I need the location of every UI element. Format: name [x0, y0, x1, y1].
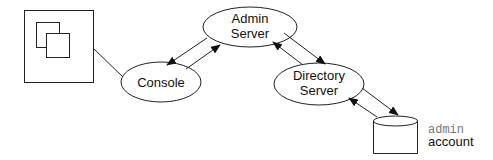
architecture-diagram: Console Admin Server Directory Server ad…	[0, 0, 493, 160]
database-cylinder-icon	[374, 116, 418, 154]
admin-server-label-line1: Admin	[232, 11, 269, 26]
directory-server-label-line2: Server	[300, 83, 339, 98]
admin-to-directory-arrow	[284, 33, 325, 64]
admin-server-node: Admin Server	[203, 7, 297, 47]
database-label: account	[428, 134, 474, 149]
screen-window-icon	[25, 11, 94, 83]
database-to-directory-arrow	[349, 98, 377, 117]
console-node: Console	[121, 62, 201, 102]
admin-to-console-arrow	[167, 38, 207, 65]
admin-server-label-line2: Server	[231, 26, 270, 41]
directory-server-label-line1: Directory	[293, 68, 346, 83]
directory-to-admin-arrow	[273, 42, 303, 65]
console-label: Console	[137, 75, 185, 90]
screen-console-connector	[93, 48, 124, 78]
